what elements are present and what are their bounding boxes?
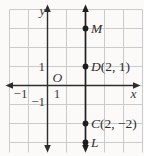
point-L <box>83 140 89 146</box>
y-tick-neg1: −1 <box>31 94 45 109</box>
point-label-C: C(2, −2) <box>91 116 137 131</box>
point-label-D: D(2, 1) <box>90 59 130 74</box>
point-label-L: L <box>90 135 99 150</box>
x-tick-neg1: −1 <box>14 86 28 101</box>
point-D <box>83 64 89 70</box>
x-axis-label: x <box>130 86 137 101</box>
coordinate-plane-svg: MD(2, 1)C(2, −2)L y x O 1 −1 1 −1 <box>0 0 144 156</box>
point-C <box>83 121 89 127</box>
y-axis-arrow-down-icon <box>44 145 51 153</box>
x-tick-1: 1 <box>54 86 61 101</box>
y-axis-label: y <box>38 3 46 18</box>
point-label-M: M <box>90 21 103 36</box>
y-axis <box>44 5 51 153</box>
line-arrow-down-icon <box>82 145 89 153</box>
y-tick-1: 1 <box>39 59 46 74</box>
coordinate-plane-figure: MD(2, 1)C(2, −2)L y x O 1 −1 1 −1 <box>0 0 144 156</box>
grid-lines <box>10 10 143 153</box>
plotted-line-and-points: MD(2, 1)C(2, −2)L <box>82 5 137 153</box>
origin-label: O <box>53 70 63 85</box>
line-arrow-up-icon <box>82 5 89 13</box>
point-M <box>83 26 89 32</box>
